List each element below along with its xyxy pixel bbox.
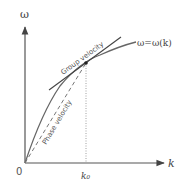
k-axis-label: k [168, 157, 175, 170]
origin-label: 0 [16, 166, 22, 177]
curve-label: ω=ω(k) [137, 38, 172, 48]
omega-axis-label: ω [20, 8, 29, 21]
k0-label: k₀ [81, 171, 90, 181]
k0-point [84, 61, 88, 65]
dispersion-diagram: ω k 0 k₀ ω=ω(k) Group velocity Phase vel… [0, 0, 187, 189]
group-velocity-label: Group velocity [59, 40, 105, 76]
phase-velocity-label: Phase velocity [41, 99, 74, 146]
phase-velocity-line [25, 63, 86, 163]
